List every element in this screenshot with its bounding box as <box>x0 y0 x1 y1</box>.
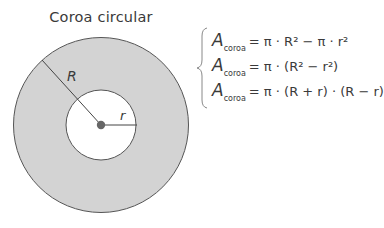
outer-radius-label: R <box>67 68 77 84</box>
center-point <box>97 121 105 129</box>
formula-rhs: = π · (R + r) · (R − r) <box>249 84 384 99</box>
formula-lhs: A <box>212 30 224 50</box>
annulus-diagram: R r <box>0 0 200 228</box>
formula-subscript: coroa <box>224 44 246 53</box>
formula-3: Acoroa= π · (R + r) · (R − r) <box>212 80 384 103</box>
formula-subscript: coroa <box>224 94 246 103</box>
curly-brace-icon <box>196 26 210 110</box>
formula-lhs: A <box>212 55 224 75</box>
formula-1: Acoroa= π · R² − π · r² <box>212 30 348 53</box>
formula-lhs: A <box>212 80 224 100</box>
formula-2: Acoroa= π · (R² − r²) <box>212 55 338 78</box>
formula-rhs: = π · R² − π · r² <box>249 34 348 49</box>
formula-subscript: coroa <box>224 69 246 78</box>
formula-rhs: = π · (R² − r²) <box>249 59 338 74</box>
